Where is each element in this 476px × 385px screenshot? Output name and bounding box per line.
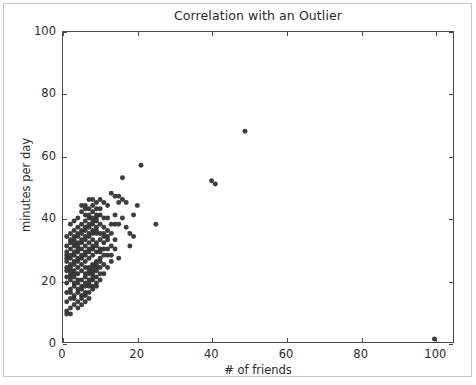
matplotlib-figure: Correlation with an Outlier 020406080100… [0,0,476,385]
y-tick-label: 0 [0,336,56,350]
y-axis-tick-labels: 020406080100 [0,0,476,385]
y-axis-label: minutes per day [19,115,33,255]
y-tick-label: 20 [0,274,56,288]
screenshot-root: Correlation with an Outlier 020406080100… [0,0,476,385]
y-tick-label: 80 [0,86,56,100]
y-tick-label: 100 [0,24,56,38]
x-axis-label: # of friends [62,363,454,377]
